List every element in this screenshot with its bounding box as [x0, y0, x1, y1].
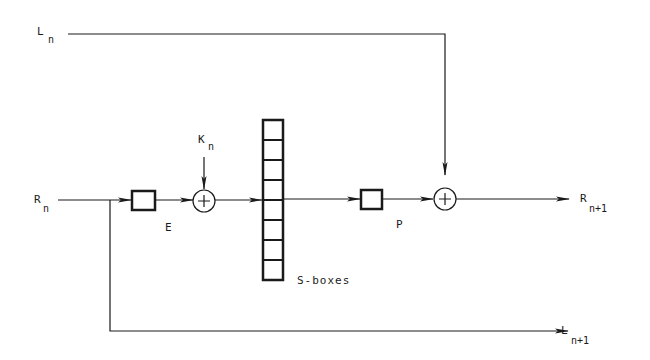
P-box [361, 190, 382, 209]
svg-text:n: n [208, 141, 214, 152]
label-E: E [165, 221, 172, 234]
label-s-boxes: S-boxes [297, 274, 350, 287]
svg-text:L: L [37, 25, 44, 38]
label-R-n: R n [34, 193, 49, 214]
L-n1-line [110, 200, 568, 331]
label-P: P [396, 218, 403, 231]
svg-text:n+1: n+1 [589, 203, 607, 214]
svg-text:R: R [580, 192, 587, 205]
L-n-line [68, 34, 445, 175]
label-R-n1: R n+1 [580, 192, 607, 214]
xor-L-icon [434, 188, 456, 210]
svg-text:L: L [561, 324, 568, 337]
svg-text:n: n [48, 34, 54, 45]
svg-text:K: K [198, 133, 205, 146]
label-L-n: L n [37, 25, 54, 45]
svg-text:n+1: n+1 [571, 335, 589, 346]
svg-text:R: R [34, 193, 41, 206]
xor-key-icon [193, 190, 215, 212]
feistel-diagram: L n R n E K n S-boxes P R [0, 0, 650, 360]
s-boxes [263, 120, 283, 280]
label-K-n: K n [198, 133, 214, 152]
svg-text:n: n [43, 203, 49, 214]
E-box [132, 191, 155, 210]
label-L-n1: L n+1 [561, 324, 589, 346]
